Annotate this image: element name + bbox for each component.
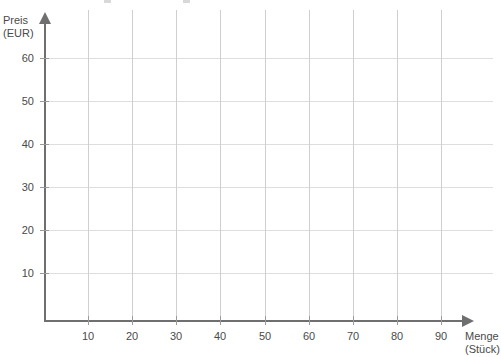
x-tick-label: 80: [382, 330, 412, 342]
x-tick-mark: [309, 316, 310, 325]
x-tick-label: 20: [117, 330, 147, 342]
cropped-title-artifact: [104, 0, 111, 3]
gridline-horizontal-10: [45, 273, 493, 274]
gridline-vertical-70: [353, 10, 354, 322]
y-tick-label: 30: [8, 181, 34, 193]
y-axis-title: Preis (EUR): [3, 14, 34, 40]
gridline-horizontal-60: [45, 58, 493, 59]
y-axis-title-line2: (EUR): [3, 27, 34, 40]
cropped-title-artifact: [183, 0, 190, 3]
y-tick-label: 20: [8, 224, 34, 236]
y-tick-mark: [40, 58, 49, 59]
y-axis-line: [44, 22, 46, 322]
x-tick-label: 40: [205, 330, 235, 342]
x-axis-title: Menge (Stück): [465, 330, 500, 356]
x-tick-label: 10: [73, 330, 103, 342]
x-tick-mark: [132, 316, 133, 325]
x-axis-title-line1: Menge: [465, 330, 500, 343]
x-tick-mark: [88, 316, 89, 325]
x-tick-mark: [397, 316, 398, 325]
y-tick-mark: [40, 230, 49, 231]
y-tick-mark: [40, 187, 49, 188]
x-tick-label: 70: [338, 330, 368, 342]
x-tick-mark: [265, 316, 266, 325]
gridline-horizontal-50: [45, 101, 493, 102]
y-tick-label: 50: [8, 95, 34, 107]
y-axis-arrow-icon: [39, 12, 51, 24]
plot-area: 60 50 40 30 20 10 10 20 30 40 50 60 70 8…: [0, 0, 501, 357]
chart-screenshot: 60 50 40 30 20 10 10 20 30 40 50 60 70 8…: [0, 0, 501, 357]
gridline-vertical-50: [265, 10, 266, 322]
x-axis-arrow-icon: [462, 315, 474, 327]
gridline-horizontal-20: [45, 230, 493, 231]
x-tick-label: 60: [294, 330, 324, 342]
gridline-vertical-60: [309, 10, 310, 322]
y-tick-label: 10: [8, 267, 34, 279]
y-tick-mark: [40, 273, 49, 274]
y-tick-mark: [40, 144, 49, 145]
x-axis-title-line2: (Stück): [465, 343, 500, 356]
x-tick-label: 50: [250, 330, 280, 342]
y-tick-label: 60: [8, 52, 34, 64]
gridline-horizontal-40: [45, 144, 493, 145]
gridline-vertical-90: [441, 10, 442, 322]
x-tick-mark: [353, 316, 354, 325]
gridline-vertical-30: [176, 10, 177, 322]
x-tick-label: 30: [161, 330, 191, 342]
x-tick-mark: [220, 316, 221, 325]
y-tick-mark: [40, 101, 49, 102]
y-tick-label: 40: [8, 138, 34, 150]
y-axis-title-line1: Preis: [3, 14, 34, 27]
x-tick-label: 90: [426, 330, 456, 342]
gridline-vertical-80: [397, 10, 398, 322]
gridline-horizontal-30: [45, 187, 493, 188]
x-axis-line: [45, 320, 465, 322]
gridline-vertical-40: [220, 10, 221, 322]
gridline-vertical-20: [132, 10, 133, 322]
x-tick-mark: [176, 316, 177, 325]
x-tick-mark: [441, 316, 442, 325]
gridline-vertical-10: [88, 10, 89, 322]
